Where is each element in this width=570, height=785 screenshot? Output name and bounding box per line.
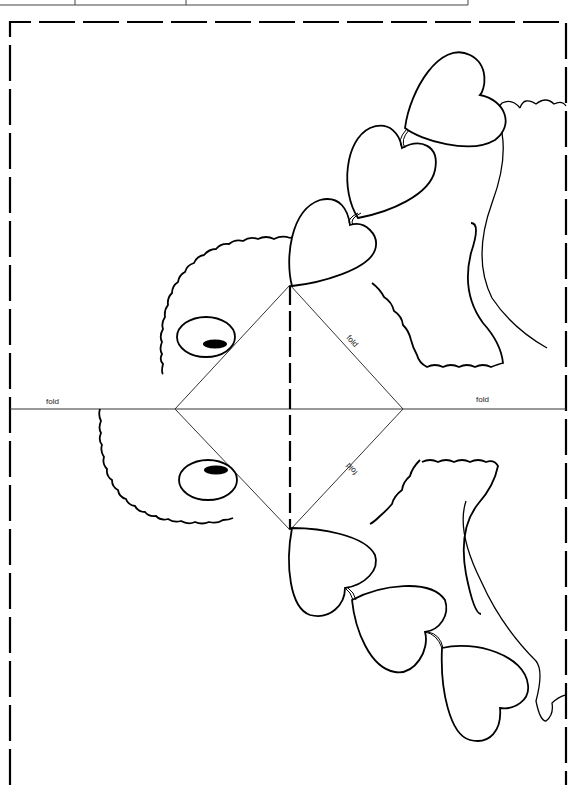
fold-label-diag-lower: fold	[344, 461, 359, 477]
top-table-edge	[0, 0, 468, 5]
heart-icon	[347, 126, 436, 218]
pupil-lower	[204, 466, 228, 475]
heart-garland-upper	[289, 52, 505, 286]
upper-wing-scallop	[520, 100, 566, 108]
heart-icon	[405, 52, 506, 146]
fold-label-diag-upper: fold	[345, 333, 360, 349]
chick-template-canvas: fold fold fold fold	[0, 0, 570, 785]
fold-label-left: fold	[46, 397, 59, 406]
heart-garland-lower	[289, 528, 528, 741]
fold-label-right: fold	[476, 395, 489, 404]
eye-lower	[179, 460, 237, 500]
heart-icon	[352, 586, 446, 672]
eye-upper	[177, 317, 235, 357]
heart-icon	[442, 646, 528, 741]
pupil-upper	[203, 340, 227, 349]
